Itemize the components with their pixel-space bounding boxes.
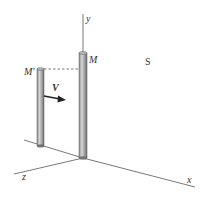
rod-m-label: M [88,54,98,65]
rod-m [79,52,87,160]
x-axis [83,158,195,187]
z-axis-label: z [21,171,26,182]
x-axis-label: x [186,174,192,185]
relativity-diagram: y M M' V S x z [0,0,211,207]
rod-m-prime-label: M' [23,66,35,77]
frame-label: S [145,56,151,67]
rod-m-prime [37,68,44,148]
velocity-label: V [52,82,60,93]
velocity-arrow-icon [44,96,66,103]
y-axis-label: y [85,13,91,24]
baseline-left [24,140,83,158]
